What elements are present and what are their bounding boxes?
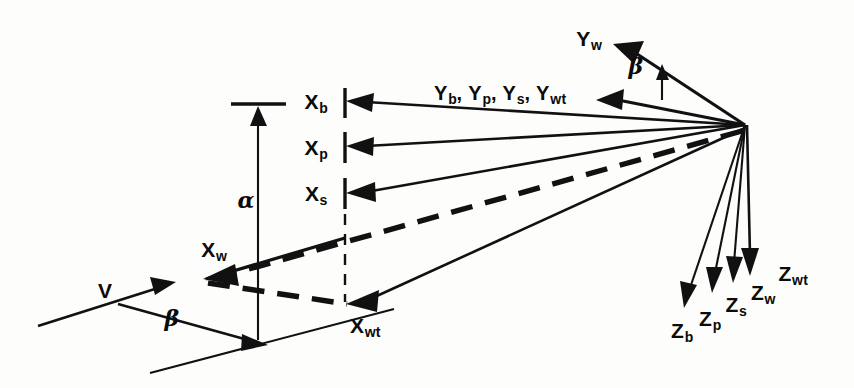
label-x-body-sub: b [319,100,328,116]
label-x-stability-base: X [305,182,319,205]
y-group-arrowhead [596,89,624,110]
label-y-wind-sub: w [591,37,602,53]
label-y-group: Yb, Yp, Ys, Ywt [434,83,566,103]
label-z-wind: Zw [751,282,775,303]
label-z-stability-base: Z [725,293,738,316]
beta-angle-lower-group [118,304,268,351]
z-principal-arrowhead [706,267,723,293]
z-body-arrowhead [680,281,697,308]
beta-angle-lower-line [118,304,248,340]
diagram-canvas [0,0,854,388]
label-x-principal-sub: p [319,146,328,162]
label-y-body: Yb, [434,82,463,104]
x-stability-arrowhead [346,182,376,202]
x-wind-to-wind-tunnel-dashed-line [208,283,347,304]
label-y-wind: Yw [576,28,601,49]
axes-systems-diagram: Xb Xp Xs Xw Xwt Yb, Yp, Ys, Ywt Yw Zb Zp… [0,0,854,388]
label-x-wind-sub: w [216,248,227,264]
x-wind-tunnel-arrowhead [346,290,379,312]
label-z-body: Zb [671,320,693,341]
x-principal-arrowhead [346,137,374,156]
label-y-principal: Yp, [468,82,497,104]
z-wind-arrowhead [741,248,759,276]
label-x-body-base: X [305,90,319,113]
label-z-wind-base: Z [751,281,764,304]
label-x-wind-tunnel-base: X [350,314,364,337]
label-x-stability: Xs [305,183,327,204]
x-wind-to-wind-tunnel-group [208,283,347,304]
label-x-principal: Xp [305,137,328,158]
alpha-arrowhead [250,106,267,126]
z-wind-vector-line [747,125,750,255]
label-beta-upper: β [629,55,644,77]
label-velocity: V [98,280,112,301]
label-x-stability-sub: s [320,192,328,208]
x-body-arrowhead [346,93,374,112]
x-axis-vector-group [203,93,745,312]
x-wind-tunnel-vector-line [368,128,745,300]
label-z-principal-base: Z [699,307,712,330]
label-z-wind-tunnel-base: Z [779,262,792,285]
label-z-wind-tunnel-sub: wt [792,272,808,288]
label-z-stability: Zs [725,294,746,315]
label-z-principal: Zp [699,308,721,329]
label-z-wind-tunnel: Zwt [779,263,808,284]
label-x-principal-base: X [305,136,319,159]
alpha-measure-group [231,104,286,340]
velocity-arrowhead [150,277,176,295]
label-y-wind-tunnel: Ywt [536,82,566,104]
label-alpha: α [237,189,254,211]
label-x-body: Xb [305,91,328,112]
label-z-wind-sub: w [764,291,775,307]
label-x-wind-base: X [201,238,215,261]
label-y-wind-base: Y [576,27,590,50]
label-x-wind-tunnel: Xwt [350,315,380,336]
label-z-body-sub: b [685,329,694,345]
x-wind-vector-dashed-line [224,131,742,276]
label-x-wind-tunnel-sub: wt [365,324,381,340]
label-z-principal-sub: p [713,317,722,333]
label-z-stability-sub: s [739,303,747,319]
z-stability-vector-line [734,125,745,263]
label-x-wind: Xw [201,239,226,260]
z-stability-arrowhead [726,256,743,283]
label-z-body-base: Z [671,319,684,342]
label-y-stability: Ys, [502,82,530,104]
label-beta-lower: β [165,307,180,329]
